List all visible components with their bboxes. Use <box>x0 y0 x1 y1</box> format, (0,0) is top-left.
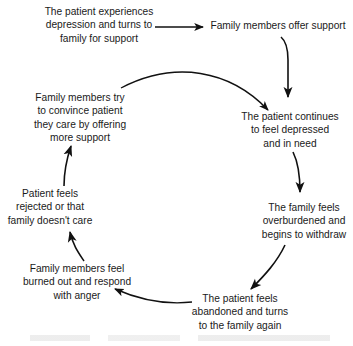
node-line: Patient feels <box>5 187 95 200</box>
node-line: to feel depressed <box>240 123 340 136</box>
node-line: to the family again <box>190 319 290 332</box>
node-continues: The patient continues to feel depressed … <box>240 110 340 150</box>
arrow-continues-to-withdraw <box>293 152 300 192</box>
node-offer: Family members offer support <box>208 19 348 32</box>
node-line: overburdened and <box>255 214 353 227</box>
node-line: burned out and respond <box>22 275 132 288</box>
node-line: The patient continues <box>240 110 340 123</box>
arrow-offer-to-continues <box>281 37 288 97</box>
node-line: The patient feels <box>190 292 290 305</box>
node-withdraw: The family feels overburdened and begins… <box>255 201 353 241</box>
node-line: abandoned and turns <box>190 305 290 318</box>
node-line: and in need <box>240 137 340 150</box>
node-line: begins to withdraw <box>255 228 353 241</box>
node-line: family doesn't care <box>5 214 95 227</box>
cropped-caption-remnant <box>30 335 330 341</box>
node-convince: Family members try to convince patient t… <box>30 91 130 145</box>
node-start: The patient experiences depression and t… <box>38 5 160 45</box>
node-anger: Family members feel burned out and respo… <box>22 262 132 302</box>
arrow-withdraw-to-abandoned <box>251 245 285 289</box>
node-line: The patient experiences <box>38 5 160 18</box>
node-rejected: Patient feels rejected or that family do… <box>5 187 95 227</box>
node-line: more support <box>30 131 130 144</box>
node-line: rejected or that <box>5 200 95 213</box>
node-line: they care by offering <box>30 118 130 131</box>
node-line: Family members feel <box>22 262 132 275</box>
node-line: Family members offer support <box>208 19 348 32</box>
node-line: The family feels <box>255 201 353 214</box>
node-line: depression and turns to <box>38 18 160 31</box>
node-abandoned: The patient feels abandoned and turns to… <box>190 292 290 332</box>
arrow-rejected-to-convince <box>64 146 71 186</box>
node-line: with anger <box>22 289 132 302</box>
node-line: family for support <box>38 32 160 45</box>
arrow-anger-to-rejected <box>70 232 84 261</box>
arrow-convince-to-continues <box>121 72 268 110</box>
node-line: to convince patient <box>30 104 130 117</box>
node-line: Family members try <box>30 91 130 104</box>
